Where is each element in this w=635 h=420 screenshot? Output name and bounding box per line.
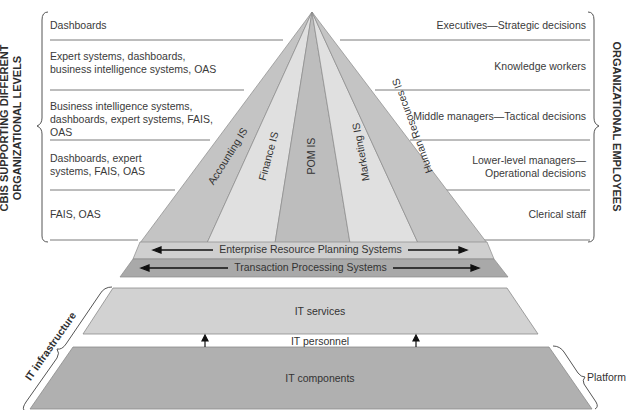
left-level-5: FAIS, OAS [50, 208, 170, 221]
left-level-3: Business intelligence systems, dashboard… [50, 100, 225, 139]
right-level-4: Lower-level managers— Operational decisi… [470, 154, 586, 180]
it-components-label: IT components [250, 372, 390, 384]
segment-label-pom: POM IS [305, 138, 317, 175]
erp-label: Enterprise Resource Planning Systems [213, 243, 408, 255]
left-level-1: Dashboards [50, 19, 280, 32]
platform-label: Platform [587, 371, 626, 383]
left-brace-icon [37, 12, 48, 242]
tps-label: Transaction Processing Systems [228, 261, 393, 273]
left-level-4: Dashboards, expert systems, FAIS, OAS [50, 152, 175, 178]
right-level-3: Middle managers—Tactical decisions [400, 110, 586, 123]
cbis-axis-title: CBIS SUPPORTING DIFFERENT ORGANIZATIONAL… [0, 23, 24, 233]
cbis-title-line2: ORGANIZATIONAL LEVELS [11, 23, 24, 233]
right-brace-icon [588, 12, 599, 242]
right-level-5: Clerical staff [470, 208, 586, 221]
it-personnel-label: IT personnel [260, 335, 380, 347]
right-level-2: Knowledge workers [400, 60, 586, 73]
right-level-1: Executives—Strategic decisions [380, 19, 586, 32]
employees-axis-title: ORGANIZATIONAL EMPLOYEES [610, 22, 623, 232]
left-level-2: Expert systems, dashboards, business int… [50, 50, 225, 76]
it-services-label: IT services [260, 305, 380, 317]
cbis-title-line1: CBIS SUPPORTING DIFFERENT [0, 23, 11, 233]
